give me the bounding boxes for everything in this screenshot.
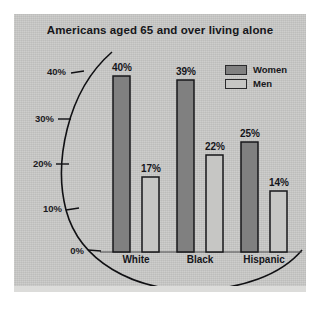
chart-figure: Americans aged 65 and over living alone (0, 0, 320, 313)
value-label-hispanic-men: 14% (259, 177, 299, 188)
bar-hispanic-women (241, 142, 258, 252)
ytick-label-40: 40% (30, 66, 66, 77)
bar-black-men (206, 155, 223, 252)
bar-white-men (142, 177, 159, 252)
legend-item-men: Men (225, 78, 287, 89)
panel-bottom-strip (14, 286, 306, 292)
legend-swatch-men (225, 79, 247, 89)
ytick-label-20: 20% (16, 158, 52, 169)
ytick-label-0: 0% (48, 245, 84, 256)
chart-legend: Women Men (225, 64, 287, 92)
legend-label-men: Men (253, 78, 272, 89)
xtick-label-white: White (106, 254, 166, 265)
ytick-label-10: 10% (26, 203, 62, 214)
bar-black-women (177, 80, 194, 252)
bar-white-women (113, 76, 130, 252)
xtick-label-hispanic: Hispanic (234, 254, 294, 265)
value-label-black-men: 22% (195, 141, 235, 152)
ytick-40 (71, 71, 84, 73)
value-label-black-women: 39% (166, 66, 206, 77)
chart-panel: Americans aged 65 and over living alone (14, 14, 306, 286)
legend-swatch-women (225, 65, 247, 75)
value-label-hispanic-women: 25% (230, 128, 270, 139)
value-label-white-women: 40% (102, 62, 142, 73)
ytick-10 (66, 208, 79, 210)
xtick-label-black: Black (170, 254, 230, 265)
legend-label-women: Women (253, 64, 287, 75)
ytick-0 (88, 250, 101, 251)
legend-item-women: Women (225, 64, 287, 75)
value-label-white-men: 17% (131, 163, 171, 174)
ytick-label-30: 30% (18, 113, 54, 124)
bar-hispanic-men (270, 191, 287, 252)
